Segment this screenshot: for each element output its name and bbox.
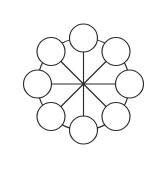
satellite-circle-bottom-right [102, 103, 130, 131]
satellite-circle-bottom-left [37, 103, 65, 131]
satellite-circle-left [24, 70, 52, 98]
satellite-circle-bottom [70, 116, 98, 144]
satellite-circle-top-right [102, 38, 130, 66]
wheel-diagram: Wheel diagram A large circle with eight … [0, 0, 165, 169]
satellite-circle-top-left [37, 38, 65, 66]
satellite-circle-top [70, 24, 98, 52]
satellite-circle-right [116, 70, 144, 98]
